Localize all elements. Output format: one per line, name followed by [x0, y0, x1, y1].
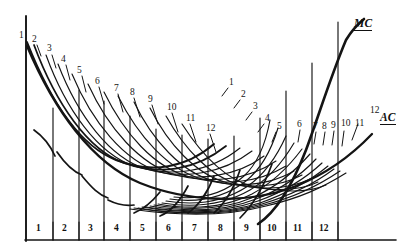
scale-cell-6: 6	[166, 224, 171, 234]
srac-label-right-7: 7	[313, 122, 318, 132]
srac-label-right-3: 3	[253, 102, 258, 112]
scale-cell-8: 8	[218, 224, 223, 234]
srac-label-left-12: 12	[206, 124, 216, 134]
srac-label-left-2: 2	[32, 35, 37, 45]
srac-label-left-11: 11	[186, 114, 195, 124]
srac-label-left-8: 8	[130, 88, 135, 98]
srac-label-left-6: 6	[95, 77, 100, 87]
srac-label-right-1: 1	[229, 78, 234, 88]
srac-label-right-6: 6	[297, 120, 302, 130]
marginal-cost-label: MC	[354, 18, 372, 31]
scale-cell-1: 1	[36, 224, 41, 234]
srac-label-left-5: 5	[77, 66, 82, 76]
srac-label-right-8: 8	[322, 122, 327, 132]
scale-cell-9: 9	[244, 224, 249, 234]
srac-curve-4	[58, 64, 252, 174]
left-label-leaders	[27, 43, 216, 152]
scale-cell-12: 12	[319, 224, 329, 234]
srac-label-right-12: 12	[370, 106, 380, 116]
srac-label-right-10: 10	[341, 119, 351, 129]
srac-curve-3	[46, 55, 240, 172]
srac-label-left-9: 9	[148, 95, 153, 105]
srac-curve-8	[118, 96, 294, 184]
srac-label-left-1: 1	[19, 31, 24, 41]
scale-cell-4: 4	[114, 224, 119, 234]
srac-label-right-9: 9	[331, 121, 336, 131]
srac-label-right-4: 4	[265, 114, 270, 124]
srac-label-left-7: 7	[114, 84, 119, 94]
srac-curve-9	[134, 102, 302, 186]
scale-cell-7: 7	[192, 224, 197, 234]
scale-cell-10: 10	[267, 224, 277, 234]
scale-cell-3: 3	[88, 224, 93, 234]
scale-cell-5: 5	[140, 224, 145, 234]
scale-cell-11: 11	[293, 224, 302, 234]
srac-label-left-3: 3	[47, 44, 52, 54]
srac-label-left-4: 4	[61, 55, 66, 65]
average-cost-label: AC	[380, 112, 396, 125]
cost-curves-figure: 1 2 3 4 5 6 7 8 9 10 11 12 1 2 3 4 5 6 7…	[0, 0, 416, 252]
srac-label-right-2: 2	[241, 90, 246, 100]
scale-cell-2: 2	[62, 224, 67, 234]
srac-label-right-5: 5	[277, 122, 282, 132]
srac-label-right-11: 11	[355, 119, 364, 129]
srac-label-left-10: 10	[167, 103, 177, 113]
